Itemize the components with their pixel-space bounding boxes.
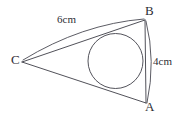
measure-label-ba: 4cm <box>153 56 172 67</box>
triangle-side-ba <box>145 20 146 103</box>
measure-arc-ba <box>146 21 151 103</box>
triangle-side-cb <box>22 20 145 62</box>
geometry-figure: B A C 6cm 4cm <box>0 0 184 117</box>
triangle-side-ca <box>22 62 146 103</box>
vertex-label-b: B <box>145 4 154 17</box>
inscribed-circle <box>88 34 143 89</box>
measure-label-cb: 6cm <box>57 14 76 25</box>
measure-arc-cb <box>23 19 144 60</box>
vertex-label-a: A <box>145 100 154 113</box>
vertex-label-c: C <box>11 53 20 66</box>
